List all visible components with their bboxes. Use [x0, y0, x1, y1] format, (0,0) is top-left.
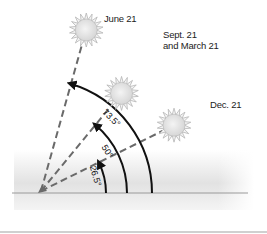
label-june-21: June 21 [104, 13, 136, 24]
ground [12, 150, 254, 210]
sun-disc [75, 19, 97, 41]
sun-disc [163, 114, 185, 136]
label-sept-21: Sept. 21 [163, 29, 197, 40]
angle-label-june: 73.5° [100, 107, 122, 129]
label-dec-21: Dec. 21 [210, 99, 241, 110]
bottom-divider [0, 231, 267, 233]
sun-icon-june [70, 13, 103, 47]
label-march-21: and March 21 [163, 40, 219, 51]
sun-icon-december [157, 108, 190, 142]
sun-angle-diagram: 73.5°50°26.5° [0, 0, 267, 234]
sun-disc [111, 82, 133, 104]
